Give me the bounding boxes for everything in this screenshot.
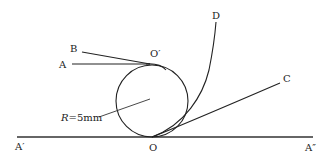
label-a-prime: A′ [15,142,25,152]
label-a: A [59,60,66,70]
label-c: C [283,74,291,84]
label-radius: R=5mm [61,113,102,123]
geometry-figure: B A O′ D C R=5mm A′ O A″ [0,0,330,166]
radius-variable: R [61,112,69,123]
diagram-canvas [0,0,330,166]
label-o-prime: O′ [150,49,160,59]
label-o: O [149,143,157,153]
radius-value: =5mm [69,112,103,123]
label-d: D [212,11,220,21]
radius-leader [99,99,150,117]
line-c [152,83,280,137]
label-b: B [70,44,77,54]
line-b [82,52,150,64]
curve-d [152,22,216,137]
label-a-double-prime: A″ [305,143,316,153]
